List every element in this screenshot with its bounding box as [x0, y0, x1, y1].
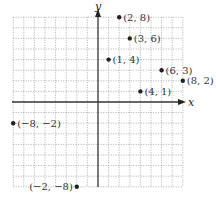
data-point: [138, 89, 142, 93]
point-label: (6, 3): [166, 65, 193, 76]
coordinate-plane: x y (2, 8)(3, 6)(1, 4)(6, 3)(8, 2)(4, 1)…: [0, 0, 216, 197]
x-axis-label: x: [188, 96, 195, 109]
y-axis-label: y: [94, 0, 102, 13]
point-label: (8, 2): [187, 75, 214, 86]
point-label: (−8, −2): [17, 118, 61, 129]
data-point: [106, 57, 110, 61]
data-point: [11, 121, 15, 125]
point-label: (3, 6): [134, 33, 161, 44]
data-point: [159, 68, 163, 72]
point-label: (−2, −8): [29, 181, 73, 192]
x-axis-arrow-icon: [178, 99, 186, 105]
data-point: [117, 15, 121, 19]
point-label: (2, 8): [123, 12, 150, 23]
point-label: (1, 4): [113, 54, 140, 65]
data-point: [128, 36, 132, 40]
data-point: [75, 185, 79, 189]
data-point: [181, 79, 185, 83]
point-label: (4, 1): [144, 86, 171, 97]
